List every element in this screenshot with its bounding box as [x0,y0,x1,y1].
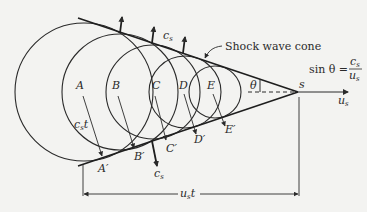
shock-wave-diagram: A B C D E A′ B′ C′ D′ E′ cs cs cst ust S… [0,0,367,212]
formula-numerator: cs [350,55,360,69]
lower-arrow [152,141,157,166]
upper-arrow-1 [120,17,122,33]
source-label-c: C [152,79,161,92]
cone-leader [205,46,222,58]
tangent-label-b: B′ [133,150,145,163]
angle-label: θ [250,79,257,92]
apex-label: s [299,78,305,91]
cone-upper-line [78,18,298,92]
upper-arrow-2 [152,27,154,43]
source-label-d: D [178,79,188,92]
formula-lhs: sin θ = [309,63,348,76]
tangent-label-e: E′ [224,123,236,136]
radius-label: cst [74,118,89,132]
pointer-b [118,96,134,148]
tangent-label-d: D′ [193,133,206,146]
tangent-label-c: C′ [166,142,177,155]
distance-label: ust [180,187,196,201]
formula-denominator: us [349,69,360,83]
source-label-e: E [206,79,215,92]
wavefront-circle-b [62,34,178,150]
wavefront-circle-e [189,66,241,118]
wavefront-circle-a [15,23,153,161]
tangent-label-a: A′ [97,162,109,175]
wave-speed-upper: cs [163,29,173,43]
diagram-svg: A B C D E A′ B′ C′ D′ E′ cs cs cst ust S… [0,0,367,212]
cone-lower-line [78,92,298,166]
velocity-label: us [338,94,349,108]
upper-arrow-3 [183,37,185,53]
wave-speed-lower: cs [154,167,164,181]
source-label-a: A [75,79,84,92]
source-label-b: B [111,79,120,92]
shock-cone-label: Shock wave cone [225,40,321,53]
pointer-e [213,94,225,126]
